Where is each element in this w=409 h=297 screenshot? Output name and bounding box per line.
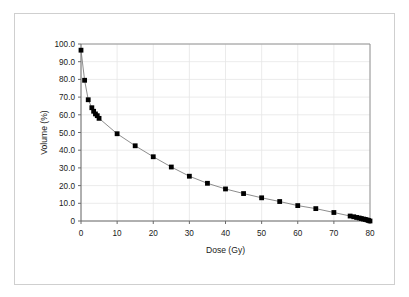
data-point-marker — [205, 181, 210, 186]
x-axis-tick-label: 60 — [293, 229, 303, 238]
x-axis-tick-label: 10 — [113, 229, 123, 238]
y-axis-tick-label: 10.0 — [59, 199, 75, 208]
y-axis-tick-label: 90.0 — [59, 58, 75, 67]
data-point-marker — [82, 78, 87, 83]
data-point-marker — [86, 97, 91, 102]
data-point-marker — [151, 154, 156, 159]
x-axis-tick-label: 20 — [149, 229, 159, 238]
y-axis-tick-label: 70.0 — [59, 93, 75, 102]
x-axis-tick-label: 50 — [257, 229, 267, 238]
x-axis-tick-label: 0 — [79, 229, 84, 238]
y-axis-tick-label: 50.0 — [59, 129, 75, 138]
x-axis-tick-label: 70 — [329, 229, 339, 238]
data-point-marker — [277, 199, 282, 204]
y-axis-tick-label: 30.0 — [59, 164, 75, 173]
data-point-marker — [313, 206, 318, 211]
data-point-marker — [368, 219, 373, 224]
chart-root: 010.020.030.040.050.060.070.080.090.0100… — [0, 0, 409, 297]
data-point-marker — [331, 210, 336, 215]
x-axis-tick-label: 30 — [185, 229, 195, 238]
x-axis-tick-label: 40 — [221, 229, 231, 238]
y-axis-tick-label: 40.0 — [59, 146, 75, 155]
dvh-chart: 010.020.030.040.050.060.070.080.090.0100… — [0, 0, 409, 297]
data-point-marker — [133, 143, 138, 148]
y-axis-tick-label: 100.0 — [55, 40, 76, 49]
data-point-marker — [259, 195, 264, 200]
data-point-marker — [79, 48, 84, 53]
data-point-marker — [187, 174, 192, 179]
data-point-marker — [169, 165, 174, 170]
y-axis-tick-label: 20.0 — [59, 182, 75, 191]
y-axis-title: Volume (%) — [39, 110, 49, 155]
y-axis-tick-label: 0 — [70, 217, 75, 226]
y-axis-tick-label: 60.0 — [59, 111, 75, 120]
data-point-marker — [97, 116, 102, 121]
x-axis-tick-label: 80 — [365, 229, 375, 238]
data-point-marker — [295, 203, 300, 208]
data-point-marker — [115, 131, 120, 136]
data-point-marker — [241, 191, 246, 196]
data-point-marker — [223, 187, 228, 192]
y-axis-tick-label: 80.0 — [59, 75, 75, 84]
x-axis-title: Dose (Gy) — [206, 245, 245, 255]
